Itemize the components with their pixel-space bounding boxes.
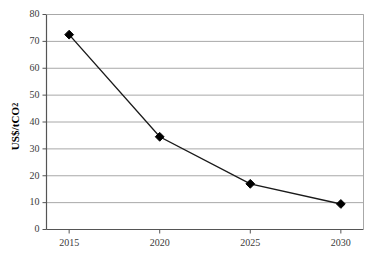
- x-tick-label: 2025: [240, 237, 260, 248]
- data-point-markers: [65, 30, 346, 208]
- data-point-marker: [336, 200, 345, 209]
- y-tick-label: 60: [30, 62, 40, 73]
- x-axis-ticks: [69, 230, 341, 234]
- y-tick-label: 30: [30, 143, 40, 154]
- plot-area: 01020304050607080 2015202020252030: [0, 0, 372, 253]
- x-tick-label: 2015: [59, 237, 79, 248]
- y-tick-label: 20: [30, 170, 40, 181]
- chart-figure: US$/tCO2 01020304050607080 2015202020252…: [0, 0, 372, 253]
- data-point-marker: [246, 179, 255, 188]
- series-line: [69, 35, 341, 204]
- x-tick-label: 2030: [331, 237, 351, 248]
- x-axis-tick-labels: 2015202020252030: [59, 237, 351, 248]
- x-tick-label: 2020: [150, 237, 170, 248]
- y-tick-label: 50: [30, 89, 40, 100]
- y-tick-label: 70: [30, 35, 40, 46]
- y-tick-label: 10: [30, 196, 40, 207]
- gridlines: [47, 15, 364, 203]
- data-line-series: [69, 35, 341, 204]
- y-tick-label: 0: [35, 223, 40, 234]
- y-tick-label: 80: [30, 8, 40, 19]
- y-axis-tick-labels: 01020304050607080: [30, 8, 40, 234]
- y-tick-label: 40: [30, 116, 40, 127]
